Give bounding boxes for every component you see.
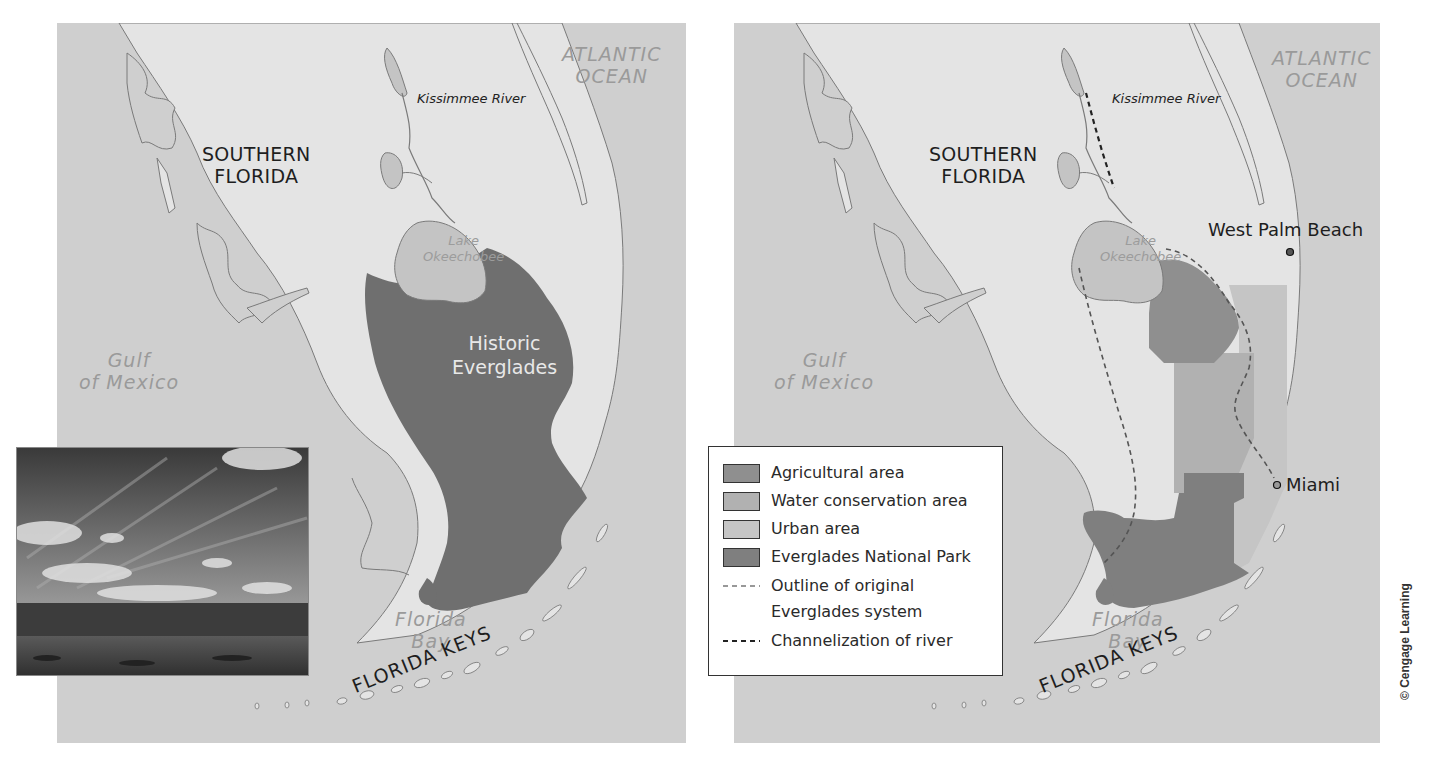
lake-line1: Lake <box>1100 233 1181 249</box>
legend-label: Channelization of river <box>771 628 953 654</box>
lake-line1: Lake <box>423 233 504 249</box>
bay-line1: Florida <box>1092 608 1164 630</box>
gulf-line1: Gulf <box>79 349 179 371</box>
everglades-photo <box>16 447 309 676</box>
lake-okeechobee-label: Lake Okeechobee <box>423 233 504 265</box>
atlantic-line2: OCEAN <box>562 65 662 87</box>
national-park-swatch <box>723 548 760 567</box>
legend-label: Agricultural area <box>771 460 905 486</box>
region-label-line2: FLORIDA <box>202 165 311 187</box>
map-legend: Agricultural area Water conservation are… <box>708 446 1003 676</box>
historic-line1: Historic <box>452 331 557 355</box>
region-label: SOUTHERN FLORIDA <box>202 143 311 187</box>
lake-line2: Okeechobee <box>1100 249 1181 265</box>
bay-line1: Florida <box>395 608 467 630</box>
atlantic-line1: ATLANTIC <box>562 43 662 65</box>
kissimmee-river-label: Kissimmee River <box>417 91 525 106</box>
historic-everglades-label: Historic Everglades <box>452 331 557 379</box>
region-label: SOUTHERN FLORIDA <box>929 143 1038 187</box>
lake-line2: Okeechobee <box>423 249 504 265</box>
gulf-line2: of Mexico <box>774 371 874 393</box>
legend-item-water-conservation: Water conservation area <box>723 487 1002 515</box>
lake-okeechobee-label: Lake Okeechobee <box>1100 233 1181 265</box>
historic-line2: Everglades <box>452 355 557 379</box>
legend-label-line1: Outline of original <box>771 576 914 595</box>
atlantic-ocean-label: ATLANTIC OCEAN <box>562 43 662 87</box>
region-label-line1: SOUTHERN <box>929 143 1038 165</box>
legend-item-channelization: Channelization of river <box>723 627 1002 655</box>
legend-label: Urban area <box>771 516 860 542</box>
gulf-of-mexico-label: Gulf of Mexico <box>774 349 874 393</box>
legend-label: Outline of original Everglades system <box>771 573 922 625</box>
water-conservation-swatch <box>723 492 760 511</box>
gulf-line1: Gulf <box>774 349 874 371</box>
bold-dashed-line-icon <box>723 628 760 654</box>
urban-swatch <box>723 520 760 539</box>
photo-graphic <box>17 448 309 676</box>
gulf-of-mexico-label: Gulf of Mexico <box>79 349 179 393</box>
legend-label: Water conservation area <box>771 488 968 514</box>
thin-dashed-line-icon <box>723 573 760 599</box>
region-label-line2: FLORIDA <box>929 165 1038 187</box>
copyright-credit: © Cengage Learning <box>1398 583 1412 700</box>
atlantic-ocean-label: ATLANTIC OCEAN <box>1272 47 1372 91</box>
legend-label: Everglades National Park <box>771 544 971 570</box>
atlantic-line1: ATLANTIC <box>1272 47 1372 69</box>
miami-marker <box>1274 482 1281 489</box>
legend-item-urban: Urban area <box>723 515 1002 543</box>
west-palm-beach-label: West Palm Beach <box>1208 219 1363 240</box>
legend-item-national-park: Everglades National Park <box>723 543 1002 571</box>
gulf-line2: of Mexico <box>79 371 179 393</box>
atlantic-line2: OCEAN <box>1272 69 1372 91</box>
legend-item-agricultural: Agricultural area <box>723 459 1002 487</box>
kissimmee-river-label: Kissimmee River <box>1112 91 1220 106</box>
legend-item-original-outline: Outline of original Everglades system <box>723 571 1002 627</box>
legend-label-line2: Everglades system <box>771 602 922 621</box>
agricultural-swatch <box>723 464 760 483</box>
west-palm-beach-marker <box>1287 249 1294 256</box>
miami-label: Miami <box>1286 474 1340 495</box>
region-label-line1: SOUTHERN <box>202 143 311 165</box>
